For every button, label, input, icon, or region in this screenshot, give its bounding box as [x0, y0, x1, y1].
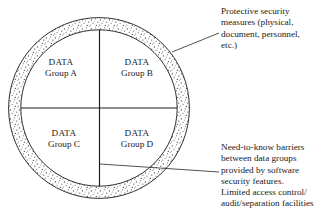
annotation-top-line-4: etc.): [221, 40, 300, 51]
annotation-top-line-3: document, personnel,: [221, 29, 300, 40]
quadrant-d-line1: DATA: [106, 128, 168, 139]
diagram-canvas: DATA Group A DATA Group B DATA Group C D…: [0, 0, 335, 214]
quadrant-label-a: DATA Group A: [30, 57, 92, 78]
annotation-bottom-line-3: provided by software: [221, 165, 314, 176]
quadrant-a-line2: Group A: [30, 68, 92, 79]
annotation-bottom-line-1: Need-to-know barriers: [221, 142, 314, 153]
quadrant-label-b: DATA Group B: [106, 57, 168, 78]
annotation-top-line-2: measures (physical,: [221, 17, 300, 28]
quadrant-label-c: DATA Group C: [33, 128, 95, 149]
annotation-need-to-know-barriers: Need-to-know barriers between data group…: [221, 142, 314, 210]
annotation-bottom-line-4: security features.: [221, 176, 314, 187]
annotation-bottom-line-5: Limited access control/: [221, 187, 314, 198]
quadrant-c-line2: Group C: [33, 139, 95, 150]
quadrant-a-line1: DATA: [30, 57, 92, 68]
quadrant-label-d: DATA Group D: [106, 128, 168, 149]
quadrant-b-line2: Group B: [106, 68, 168, 79]
annotation-bottom-line-6: audit/separation facilities: [221, 198, 314, 209]
quadrant-b-line1: DATA: [106, 57, 168, 68]
annotation-protective-security: Protective security measures (physical, …: [221, 6, 300, 51]
annotation-top-line-1: Protective security: [221, 6, 300, 17]
annotation-bottom-line-2: between data groups: [221, 153, 314, 164]
quadrant-c-line1: DATA: [33, 128, 95, 139]
quadrant-d-line2: Group D: [106, 139, 168, 150]
